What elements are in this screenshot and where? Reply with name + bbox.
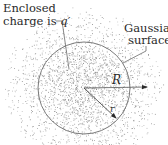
enclosed-label-line1: Enclosed: [3, 1, 57, 15]
small-radius-label: r: [110, 104, 115, 114]
big-radius-label: R: [111, 73, 121, 87]
enclosed-label-prefix: charge is: [3, 14, 60, 28]
enclosed-label-line2: charge is q′: [3, 14, 71, 28]
gaussian-surface-diagram: Enclosed charge is q′ Gaussian surface R…: [0, 0, 168, 145]
gaussian-label-line2: surface: [128, 33, 168, 47]
enclosed-charge-symbol: q′: [60, 14, 70, 28]
